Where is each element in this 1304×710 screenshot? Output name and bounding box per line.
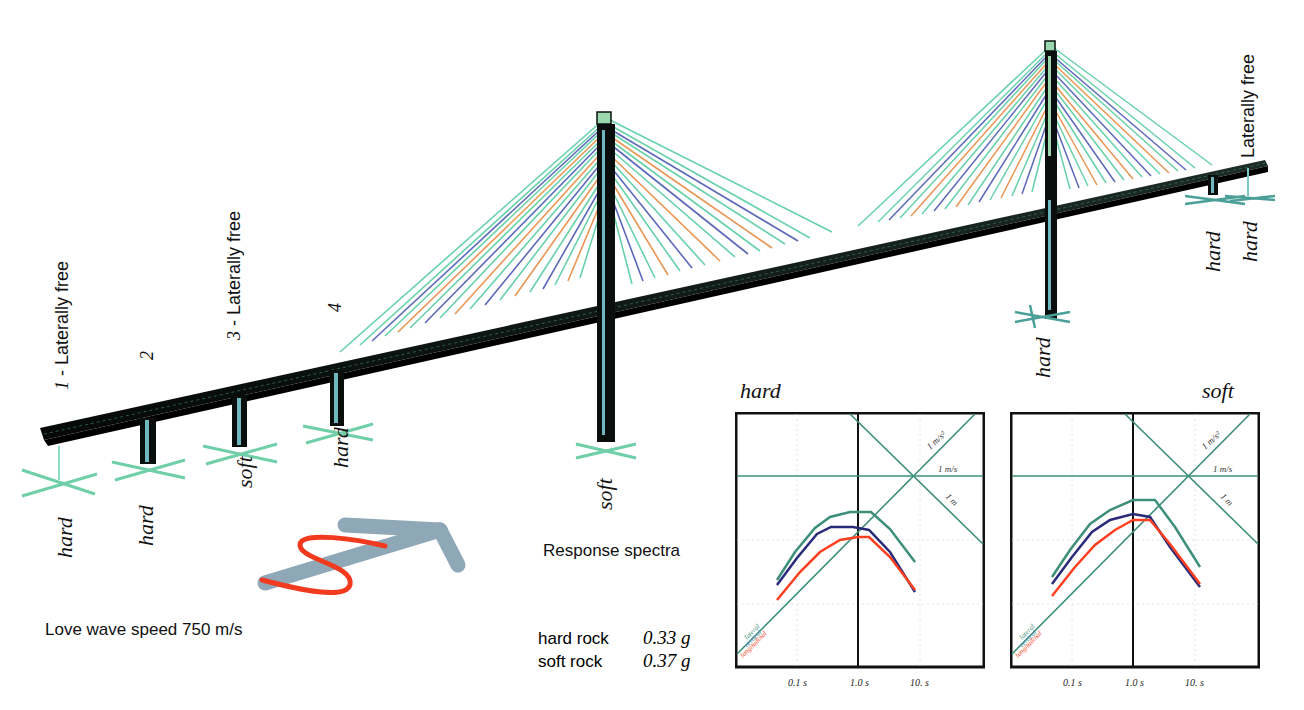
end-pier xyxy=(1208,175,1218,195)
chart-hard-title: hard xyxy=(740,378,781,404)
response-spectrum-chart-hard: 1 m/s² 1 m/s 1 m lateral vertical longit… xyxy=(735,412,985,682)
end-abutment-note: Laterally free xyxy=(1238,54,1259,158)
x-tick-0.1: 0.1 s xyxy=(788,677,807,688)
pier-4 xyxy=(330,370,344,426)
pier-2 xyxy=(140,418,156,464)
love-wave-arrow-icon xyxy=(262,525,458,593)
support-3-label: 3 - Laterally free xyxy=(224,211,245,340)
cable-fan-pylon2-left xyxy=(858,48,1048,226)
ground-label-end-abutment: hard xyxy=(1237,221,1263,262)
support-1-note: - Laterally free xyxy=(52,261,72,381)
hard-rock-label: hard rock xyxy=(538,629,609,649)
x-tick-1.0: 1.0 s xyxy=(850,677,869,688)
soft-rock-value: 0.37 g xyxy=(643,650,691,672)
guide-velocity-label: 1 m/s xyxy=(1213,464,1233,474)
cable-fan-pylon2-right xyxy=(1054,48,1212,189)
chart-soft-title: soft xyxy=(1202,378,1234,404)
love-wave-label: Love wave speed 750 m/s xyxy=(45,620,243,640)
response-spectrum-chart-soft: 1 m/s² 1 m/s 1 m lateral vertical longit… xyxy=(1010,412,1260,682)
ground-label-end-pier: hard xyxy=(1200,231,1226,272)
ground-label-1: hard xyxy=(52,517,78,558)
ground-label-4: hard xyxy=(328,427,354,468)
soft-rock-label: soft rock xyxy=(538,652,602,672)
support-1-label: 1 - Laterally free xyxy=(52,261,73,390)
pier-3 xyxy=(232,395,247,447)
support-3-note: - Laterally free xyxy=(224,211,244,331)
x-tick-0.1: 0.1 s xyxy=(1063,677,1082,688)
ground-label-pylon-2: hard xyxy=(1030,337,1056,378)
response-spectra-title: Response spectra xyxy=(543,541,680,561)
hard-rock-value: 0.33 g xyxy=(643,627,691,649)
ground-label-pylon-1: soft xyxy=(592,478,618,510)
support-2-number: 2 xyxy=(137,351,158,360)
ground-label-2: hard xyxy=(133,505,159,546)
ground-label-3: soft xyxy=(232,456,258,488)
x-tick-10: 10. s xyxy=(1185,677,1204,688)
x-tick-10: 10. s xyxy=(910,677,929,688)
guide-velocity-label: 1 m/s xyxy=(938,464,958,474)
cable-fan-pylon1-right xyxy=(610,120,832,284)
support-4-number: 4 xyxy=(325,303,346,312)
support-1-number: 1 xyxy=(52,381,72,390)
pylon-2 xyxy=(1045,41,1057,319)
x-tick-1.0: 1.0 s xyxy=(1125,677,1144,688)
support-3-number: 3 xyxy=(224,331,244,340)
pylon-1 xyxy=(597,112,615,442)
